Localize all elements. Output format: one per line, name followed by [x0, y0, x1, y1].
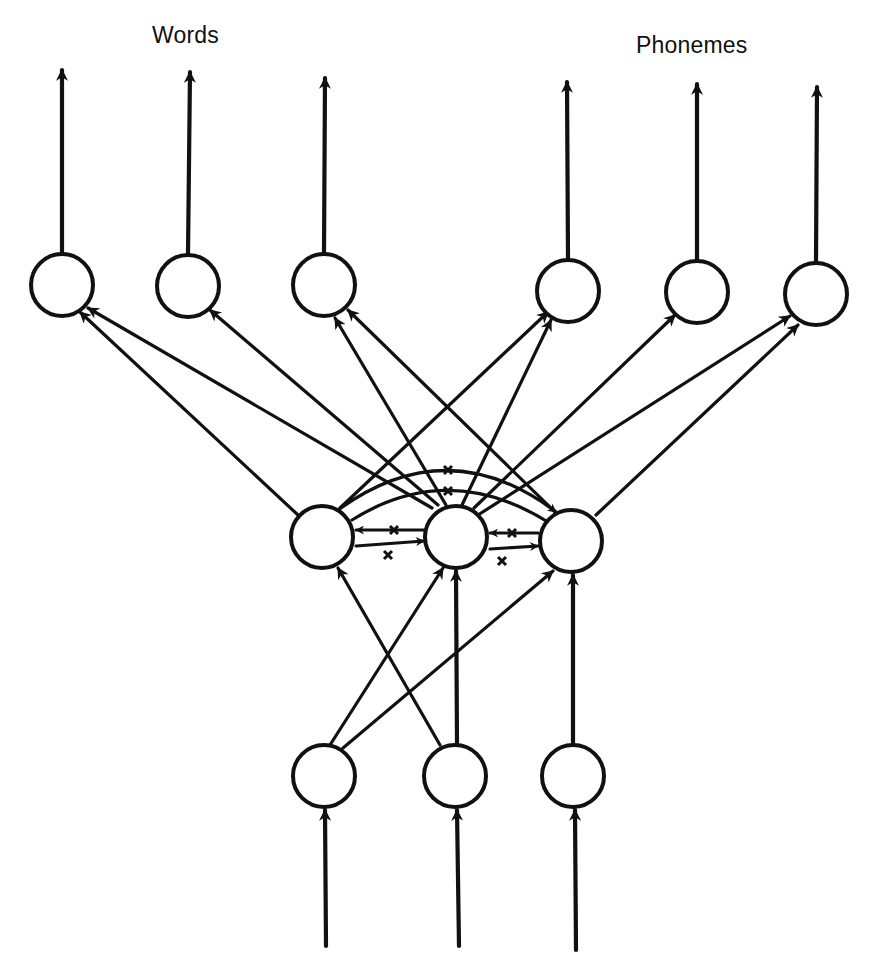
edge-i1-h3: [343, 571, 553, 748]
input-unit-2: [424, 745, 486, 807]
edge-h3-o3: [348, 310, 555, 512]
phoneme-unit-2: [666, 261, 728, 323]
hidden-unit-2: [425, 506, 487, 568]
input-arrow-3: [575, 810, 576, 950]
edge-h2-o3: [335, 318, 446, 505]
input-arrows: [325, 810, 576, 950]
inhibit-x-icon: [384, 551, 392, 559]
output-arrow-3: [324, 78, 325, 253]
inhibit-x-icon: [498, 557, 506, 565]
input-layer: [293, 745, 604, 807]
edge-h2-h3-inhibit: [490, 546, 538, 549]
input-to-hidden-edges: [330, 568, 573, 748]
hidden-to-output-edges: [80, 308, 798, 515]
edge-i2-h2: [456, 571, 457, 744]
edge-h1-o4: [340, 312, 548, 508]
edge-h1-h2-inhibit: [356, 541, 424, 546]
input-arrow-1: [325, 810, 326, 946]
edge-h2-o6: [478, 316, 790, 515]
network-diagram: [0, 0, 872, 970]
output-arrow-2: [188, 72, 190, 254]
edge-h1-o1: [80, 312, 298, 515]
hidden-layer: [291, 506, 602, 572]
hidden-unit-3: [540, 510, 602, 572]
input-unit-1: [293, 745, 355, 807]
hidden-unit-1: [291, 506, 353, 568]
input-arrow-2: [457, 810, 459, 946]
word-unit-3: [293, 254, 355, 316]
output-arrow-4: [567, 82, 568, 259]
phoneme-unit-1: [537, 260, 599, 322]
word-unit-2: [157, 255, 219, 317]
phoneme-unit-3: [785, 263, 847, 325]
word-unit-1: [31, 254, 93, 316]
output-layer: [31, 254, 847, 325]
input-unit-3: [542, 745, 604, 807]
edge-h2-o5: [474, 315, 675, 508]
output-arrow-6: [816, 87, 817, 262]
output-arrows: [62, 70, 817, 262]
